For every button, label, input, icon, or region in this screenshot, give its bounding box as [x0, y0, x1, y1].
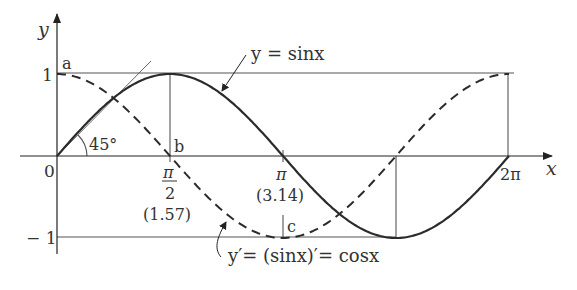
angle-arc	[78, 135, 87, 156]
y-tick-1: 1	[42, 65, 53, 85]
x-tick-pi-half-numerator: π	[162, 163, 174, 182]
guide-lines	[57, 61, 514, 237]
point-b-label: b	[174, 137, 184, 156]
x-tick-pi-half-approx: (1.57)	[143, 205, 191, 224]
x-axis-label: x	[546, 157, 557, 179]
origin-label: 0	[44, 161, 55, 181]
x-tick-pi-approx: (3.14)	[256, 186, 304, 205]
cos-curve-label: y′= (sinx)′= cosx	[227, 245, 379, 266]
angle-label: 45°	[89, 135, 117, 154]
cos-label-arrow	[217, 222, 226, 257]
x-tick-pi: π	[275, 165, 287, 184]
x-tick-2pi: 2π	[500, 165, 521, 184]
sine-cosine-diagram: y x 0 1 − 1 π 2 (1.57) π (3.14) 2π a b c…	[0, 0, 577, 290]
sin-curve-label: y = sinx	[250, 43, 324, 64]
point-c-label: c	[287, 217, 296, 236]
y-axis-label: y	[37, 18, 49, 40]
point-a-label: a	[62, 54, 72, 73]
x-tick-pi-half-denominator: 2	[165, 184, 175, 203]
y-tick-minus1: − 1	[26, 228, 56, 248]
